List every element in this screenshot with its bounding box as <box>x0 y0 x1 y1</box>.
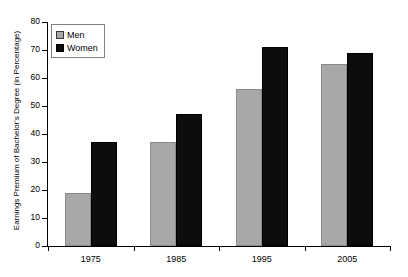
y-tick-label: 20 <box>14 184 40 194</box>
y-tick-mark <box>42 106 48 107</box>
y-tick-mark <box>42 22 48 23</box>
y-tick-label: 50 <box>14 100 40 110</box>
y-tick-label: 0 <box>14 240 40 250</box>
y-tick-label: 70 <box>14 44 40 54</box>
y-tick-mark <box>42 162 48 163</box>
y-tick-label: 60 <box>14 72 40 82</box>
y-tick-mark <box>42 190 48 191</box>
x-tick-mark <box>219 246 220 251</box>
legend-swatch-men-icon <box>56 31 64 39</box>
x-tick-label-1995: 1995 <box>232 254 292 264</box>
legend: MenWomen <box>51 24 105 58</box>
x-tick-mark <box>390 246 391 251</box>
legend-item-women: Women <box>56 41 98 54</box>
legend-item-men: Men <box>56 28 98 41</box>
x-tick-mark <box>48 246 49 251</box>
bar-men-1975 <box>65 193 91 246</box>
y-tick-label: 80 <box>14 16 40 26</box>
y-tick-mark <box>42 78 48 79</box>
y-tick-label: 30 <box>14 156 40 166</box>
legend-label-women: Women <box>67 43 98 53</box>
bar-chart: Earnings Premium of Bachelor's Degree (i… <box>0 0 408 277</box>
x-tick-label-2005: 2005 <box>317 254 377 264</box>
legend-label-men: Men <box>67 30 85 40</box>
y-tick-mark <box>42 218 48 219</box>
y-tick-label: 40 <box>14 128 40 138</box>
y-tick-mark <box>42 134 48 135</box>
bar-men-1985 <box>150 142 176 246</box>
x-tick-mark <box>134 246 135 251</box>
x-tick-mark <box>305 246 306 251</box>
y-tick-label: 10 <box>14 212 40 222</box>
bar-women-1995 <box>262 47 288 246</box>
y-tick-mark <box>42 50 48 51</box>
bar-men-2005 <box>321 64 347 246</box>
bar-women-2005 <box>347 53 373 246</box>
bar-women-1985 <box>176 114 202 246</box>
bar-women-1975 <box>91 142 117 246</box>
bar-men-1995 <box>236 89 262 246</box>
x-tick-label-1975: 1975 <box>61 254 121 264</box>
legend-swatch-women-icon <box>56 44 64 52</box>
x-tick-label-1985: 1985 <box>146 254 206 264</box>
